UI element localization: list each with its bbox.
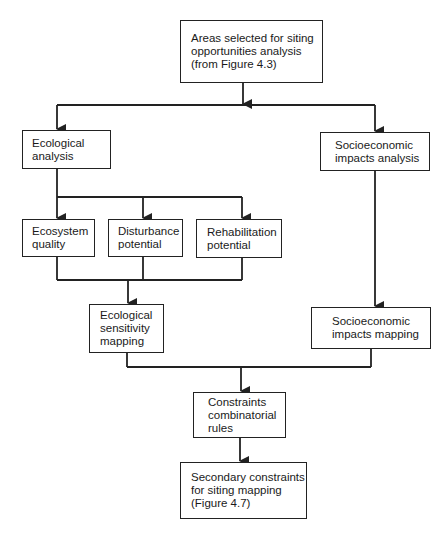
node-label: Rehabilitation potential <box>207 226 277 252</box>
node-label: Areas selected for siting opportunities … <box>191 32 314 71</box>
node-socioeconomic-impacts-analysis: Socioeconomic impacts analysis <box>320 132 430 171</box>
node-label: Socioeconomic impacts mapping <box>332 315 419 341</box>
node-constraints-combinatorial-rules: Constraints combinatorial rules <box>193 392 286 438</box>
node-label: Ecological analysis <box>32 137 84 163</box>
node-ecological-analysis: Ecological analysis <box>22 130 111 169</box>
node-ecosystem-quality: Ecosystem quality <box>22 219 95 257</box>
node-socioeconomic-impacts-mapping: Socioeconomic impacts mapping <box>311 307 431 349</box>
node-label: Constraints combinatorial rules <box>208 396 276 435</box>
node-disturbance-potential: Disturbance potential <box>108 219 183 257</box>
node-label: Disturbance potential <box>118 225 179 251</box>
node-label: Socioeconomic impacts analysis <box>335 139 419 165</box>
node-label: Ecosystem quality <box>32 225 88 251</box>
node-label: Secondary constraints for siting mapping… <box>191 471 305 510</box>
node-ecological-sensitivity-mapping: Ecological sensitivity mapping <box>89 304 164 353</box>
node-rehabilitation-potential: Rehabilitation potential <box>196 219 282 258</box>
node-secondary-constraints: Secondary constraints for siting mapping… <box>180 462 307 519</box>
node-label: Ecological sensitivity mapping <box>100 309 152 348</box>
node-areas-selected: Areas selected for siting opportunities … <box>180 20 323 83</box>
